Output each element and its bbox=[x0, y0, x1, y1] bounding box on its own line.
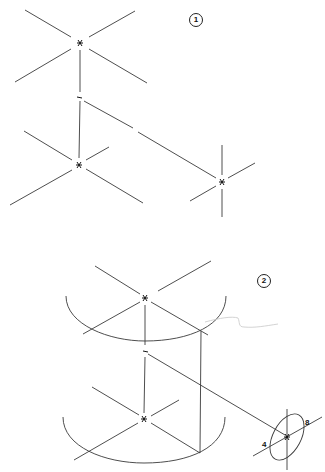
receding-axis-2 bbox=[148, 354, 285, 435]
mid-mark-2 bbox=[143, 351, 148, 352]
figure-1 bbox=[10, 10, 255, 217]
center-mark-top-2 bbox=[142, 295, 148, 301]
center-mark-bottom-2 bbox=[141, 416, 147, 422]
top-ellipse-arc bbox=[66, 296, 226, 341]
step-badge-2: 2 bbox=[257, 274, 271, 288]
step-badge-1: 1 bbox=[189, 13, 203, 27]
construction-drawing bbox=[0, 0, 325, 472]
axis-cross-top bbox=[15, 10, 147, 83]
bottom-ellipse-arc bbox=[63, 417, 225, 463]
axis-cross-bottom-2 bbox=[74, 387, 200, 460]
figure-2 bbox=[63, 261, 322, 470]
axis-cross-bottom-left bbox=[10, 131, 143, 205]
drawing-canvas: 1 2 4 8 bbox=[0, 0, 325, 472]
mid-mark bbox=[77, 97, 82, 98]
center-mark-top bbox=[77, 40, 83, 46]
receding-axis bbox=[84, 101, 133, 128]
ellipse-label-major: 8 bbox=[305, 418, 309, 427]
ellipse-label-minor: 4 bbox=[262, 440, 266, 449]
pencil-scribble bbox=[205, 317, 278, 327]
center-mark-right bbox=[219, 179, 225, 185]
center-mark-bottom-left bbox=[76, 162, 82, 168]
front-vertical bbox=[200, 331, 201, 453]
